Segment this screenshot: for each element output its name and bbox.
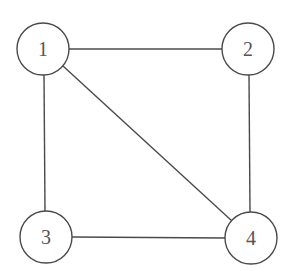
edges [44,49,250,238]
node-3-label: 3 [41,226,51,248]
node-2-label: 2 [243,38,253,60]
node-3: 3 [20,211,72,263]
edge-2-4 [249,75,250,212]
edge-1-3 [44,75,45,211]
edge-1-4 [63,66,232,221]
graph-diagram: 1 2 3 4 [0,0,294,271]
node-1-label: 1 [38,38,48,60]
edge-3-4 [72,237,225,238]
node-2: 2 [222,23,274,75]
node-4-label: 4 [246,227,256,249]
node-4: 4 [225,212,277,264]
node-1: 1 [17,23,69,75]
